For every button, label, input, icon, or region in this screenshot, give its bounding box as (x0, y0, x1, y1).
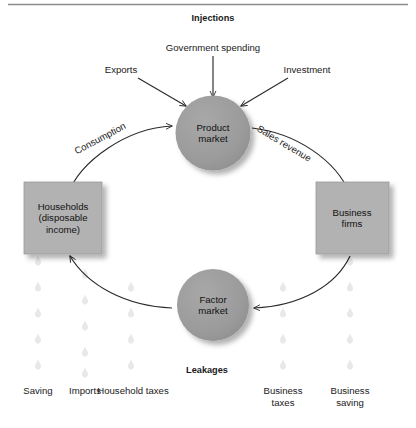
business-firms-box (316, 182, 389, 254)
label-investment: Investment (284, 64, 331, 76)
leakages-heading: Leakages (186, 365, 228, 377)
label-saving: Saving (23, 385, 52, 397)
label-business-taxes: Business taxes (252, 385, 314, 408)
arrow-investment (241, 78, 288, 106)
diagram-canvas (0, 0, 416, 428)
arrow-business-to-factor (254, 256, 350, 308)
label-business-saving: Business saving (319, 385, 381, 408)
factor-market-circle (177, 269, 249, 341)
households-box (24, 182, 102, 254)
label-government-spending: Government spending (166, 42, 260, 54)
circular-flow-diagram: Injections Leakages Government spending … (0, 0, 416, 428)
injections-heading: Injections (192, 13, 235, 25)
label-exports: Exports (105, 64, 138, 76)
label-household-taxes: Household taxes (96, 385, 170, 397)
product-market-circle (176, 96, 251, 171)
arrow-exports (138, 78, 186, 106)
